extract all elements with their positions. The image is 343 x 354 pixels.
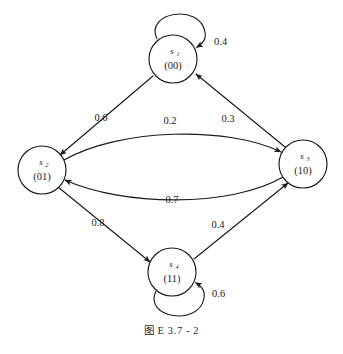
edge-path-s1-s1 [155,14,205,39]
state-diagram-canvas: 0.4 0.6 0.2 0.3 0.7 0.8 0. [0,0,343,354]
edge-label-s1-s2: 0.6 [94,112,107,123]
state-node-s4-subscript: 4 [176,264,179,270]
state-node-s2-circle [18,146,66,194]
state-node-s1[interactable]: s 1 (00) [149,35,197,83]
state-node-s1-code: (00) [164,60,182,72]
edge-label-s4-s4: 0.6 [212,288,225,299]
edge-label-s1-s1: 0.4 [214,36,228,47]
edge-label-s4-s3: 0.4 [211,219,225,230]
state-node-s1-circle [149,35,197,83]
state-node-s4-circle [148,248,196,296]
state-node-s2-code: (01) [33,171,51,183]
edge-path-s2-s3 [64,134,281,160]
edge-label-s2-s3: 0.2 [163,115,176,126]
edge-label-s3-s1: 0.3 [221,113,234,124]
figure-caption: 图 E 3.7 - 2 [0,322,343,337]
edge-path-s4-s3 [194,183,288,259]
edge-label-s3-s2: 0.7 [165,194,178,205]
edge-path-s3-s1 [196,74,285,147]
edge-label-s2-s4: 0.8 [91,217,104,228]
state-node-s2[interactable]: s 2 (01) [18,146,66,194]
state-node-s3-circle [279,140,327,188]
edge-arrowhead-s4-s4 [196,283,205,299]
state-node-s3-name: s [300,151,304,161]
state-node-s1-name: s [170,46,174,56]
state-node-s2-name: s [39,157,43,167]
edge-s3-s1: 0.3 [196,74,285,147]
state-diagram-figure: 0.4 0.6 0.2 0.3 0.7 0.8 0. [0,0,343,354]
state-node-s4[interactable]: s 4 (11) [148,248,196,296]
edge-arrowhead-s1-s1 [197,32,206,48]
state-node-s2-subscript: 2 [46,162,49,168]
state-node-s4-name: s [169,259,173,269]
state-node-s1-subscript: 1 [177,51,180,57]
state-node-s3-subscript: 3 [306,156,310,162]
state-node-s3[interactable]: s 3 (10) [279,140,327,188]
state-node-s4-code: (11) [163,273,181,285]
edge-s3-s2: 0.7 [65,177,283,205]
state-node-s3-code: (10) [294,165,312,177]
edge-s4-s3: 0.4 [194,183,288,259]
